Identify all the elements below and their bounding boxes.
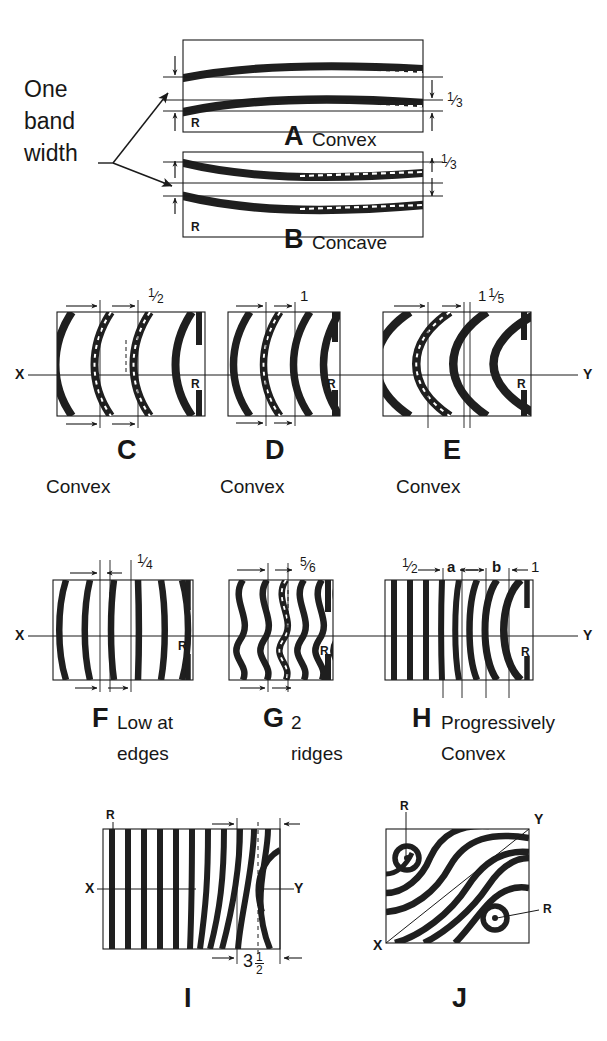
- panel-d-ref-label: R: [327, 378, 336, 390]
- panel-c-group: [56, 300, 206, 428]
- panel-g-fringes: [236, 580, 341, 680]
- panel-e-ref-label: R: [517, 378, 526, 390]
- panel-j-axis-label-y: Y: [534, 812, 543, 826]
- panel-d-dim-one: 1: [300, 288, 308, 303]
- panel-g-group: [229, 563, 342, 692]
- panel-h-fringes: [394, 580, 527, 680]
- panel-j-letter: J: [452, 985, 467, 1012]
- panel-d-caption: Convex: [220, 477, 284, 496]
- axis-label-y-row2: Y: [583, 367, 592, 381]
- one-band-width-leaders: [98, 93, 172, 186]
- panel-b-fringes: [183, 162, 423, 210]
- panel-g-dim-fivesixths: 5⁄6: [300, 556, 316, 574]
- panel-a-caption: Convex: [312, 130, 376, 149]
- panel-i-letter: I: [184, 985, 192, 1012]
- panel-i-axis-label-x: X: [85, 881, 94, 895]
- panel-h-dim-one: 1: [531, 559, 539, 574]
- panel-i-axis-label-y: Y: [294, 881, 303, 895]
- axis-label-x-row2: X: [15, 367, 24, 381]
- one-band-width-line2: band: [24, 110, 75, 133]
- panel-b-dim-third: 1⁄3: [441, 153, 457, 171]
- panel-d-letter: D: [265, 437, 285, 464]
- panel-c-fringes: [56, 312, 200, 416]
- figure-root: One band width R A Convex 1⁄3 R B Concav…: [0, 0, 607, 1041]
- one-band-width-line1: One: [24, 78, 67, 101]
- panel-i-group: [97, 818, 302, 964]
- panel-a-letter: A: [284, 123, 304, 150]
- panel-d-group: [228, 302, 340, 426]
- panel-g-caption-line2: ridges: [291, 744, 343, 763]
- panel-e-dim-onefifth: 11⁄5: [478, 287, 504, 305]
- panel-g-caption-line1: 2: [291, 713, 302, 732]
- panel-h-group: [385, 568, 533, 698]
- panel-h-dim-b: b: [492, 559, 501, 574]
- panel-h-letter: H: [412, 705, 432, 732]
- panel-c-letter: C: [117, 437, 137, 464]
- panel-j-axis-label-x: X: [373, 938, 382, 952]
- panel-b-letter: B: [284, 226, 304, 253]
- panel-f-ref-label: R: [178, 640, 187, 652]
- panel-a-group: [163, 40, 443, 132]
- panel-h-caption-line2: Convex: [441, 744, 505, 763]
- panel-a-fringes: [183, 64, 423, 112]
- panel-i-dim-threehalf: 312: [243, 950, 264, 975]
- panel-h-dim-half: 1⁄2: [402, 557, 418, 575]
- axis-label-x-row3: X: [15, 628, 24, 642]
- panel-c-caption: Convex: [46, 477, 110, 496]
- panel-f-caption-line1: Low at: [117, 713, 173, 732]
- panel-e-group: [376, 302, 540, 428]
- panel-f-frame: [53, 580, 193, 680]
- panel-f-fringes: [59, 580, 188, 680]
- panel-f-group: [53, 560, 193, 692]
- panel-c-dim-half: 1⁄2: [148, 287, 164, 305]
- panel-c-ref-label: R: [191, 378, 200, 390]
- panel-e-letter: E: [443, 437, 461, 464]
- axis-label-y-row3: Y: [583, 628, 592, 642]
- panel-d-fringes: [234, 312, 341, 416]
- panel-j-group: [386, 812, 539, 943]
- one-band-width-line3: width: [24, 142, 78, 165]
- panel-f-caption-line2: edges: [117, 744, 169, 763]
- panel-j-ref-label-bottom: R: [543, 903, 552, 915]
- panel-f-dim-quarter: 1⁄4: [137, 553, 153, 571]
- panel-b-caption: Concave: [312, 233, 387, 252]
- panel-g-letter: G: [263, 705, 284, 732]
- panel-a-ref-label: R: [191, 117, 200, 129]
- panel-f-letter: F: [92, 705, 109, 732]
- panel-h-ref-label: R: [521, 646, 530, 658]
- panel-h-caption-line1: Progressively: [441, 713, 555, 732]
- panel-g-ref-label: R: [320, 645, 329, 657]
- panel-e-fringes: [376, 312, 540, 416]
- panel-a-dim-third: 1⁄3: [447, 91, 463, 109]
- panel-i-ref-label: R: [106, 809, 115, 821]
- panel-h-dim-a: a: [447, 559, 455, 574]
- panel-b-ref-label: R: [191, 221, 200, 233]
- panel-j-ref-label-top: R: [400, 800, 409, 812]
- panel-a-frame: [183, 40, 423, 132]
- panel-e-caption: Convex: [396, 477, 460, 496]
